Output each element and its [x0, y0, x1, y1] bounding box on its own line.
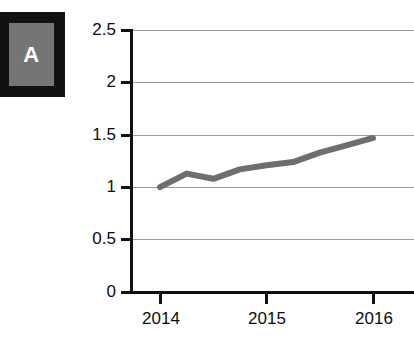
x-tick-mark-2014: [159, 294, 162, 304]
y-tick-mark-1: [121, 186, 130, 189]
y-tick-label-1: 1: [72, 178, 116, 195]
y-tick-mark-1.5: [121, 134, 130, 137]
y-tick-mark-2: [121, 81, 130, 84]
y-tick-label-2.5: 2.5: [72, 21, 116, 38]
chart-area: 2.5 2 1.5 1 0.5 0 2014 2015 2016: [0, 0, 414, 346]
x-tick-label-2016: 2016: [339, 310, 409, 327]
data-line-chart: [130, 30, 414, 292]
y-tick-mark-2.5: [121, 29, 130, 32]
y-tick-label-0.5: 0.5: [72, 230, 116, 247]
y-tick-label-2: 2: [72, 73, 116, 90]
y-tick-label-1.5: 1.5: [72, 126, 116, 143]
x-tick-label-2014: 2014: [126, 310, 196, 327]
x-tick-mark-2015: [265, 294, 268, 304]
series-line-1: [160, 138, 373, 187]
x-tick-label-2015: 2015: [232, 310, 302, 327]
y-tick-mark-0: [121, 291, 130, 294]
x-tick-mark-2016: [372, 294, 375, 304]
y-tick-label-0: 0: [72, 283, 116, 300]
y-tick-mark-0.5: [121, 238, 130, 241]
